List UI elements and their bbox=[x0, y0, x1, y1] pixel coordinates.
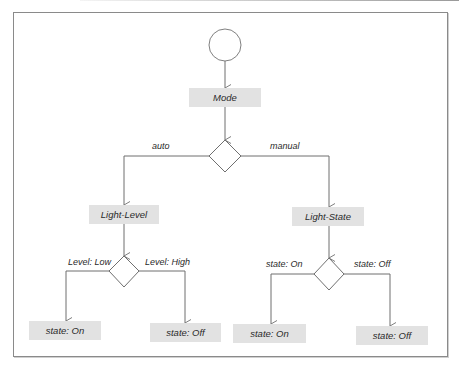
branch-label-state-on: state: On bbox=[266, 259, 303, 269]
node-light-state: Light-State bbox=[292, 207, 364, 226]
edge-auto bbox=[124, 156, 209, 205]
node-mode: Mode bbox=[189, 88, 261, 107]
edge-state-on bbox=[271, 274, 314, 324]
node-leaf-level-high-state-off: state: Off bbox=[150, 323, 221, 342]
node-leaf-level-low-state-on: state: On bbox=[29, 321, 101, 340]
branch-label-auto: auto bbox=[152, 141, 170, 151]
branch-label-level-high: Level: High bbox=[145, 257, 190, 267]
node-light-level: Light-Level bbox=[89, 205, 159, 224]
light-level-decision-diamond bbox=[109, 256, 139, 287]
branch-label-level-low: Level: Low bbox=[68, 257, 111, 267]
edge-level-high bbox=[139, 271, 185, 323]
branch-label-state-off: state: Off bbox=[354, 259, 391, 269]
start-node-circle bbox=[209, 29, 241, 61]
node-leaf-manual-state-on: state: On bbox=[233, 324, 306, 343]
edge-state-off bbox=[344, 274, 390, 326]
edge-manual bbox=[241, 156, 329, 207]
flowchart-connectors bbox=[0, 0, 459, 368]
light-state-decision-diamond bbox=[314, 258, 344, 290]
edge-level-low bbox=[66, 271, 109, 321]
branch-label-manual: manual bbox=[270, 141, 300, 151]
node-leaf-manual-state-off: state: Off bbox=[356, 326, 428, 345]
mode-decision-diamond bbox=[209, 140, 241, 172]
